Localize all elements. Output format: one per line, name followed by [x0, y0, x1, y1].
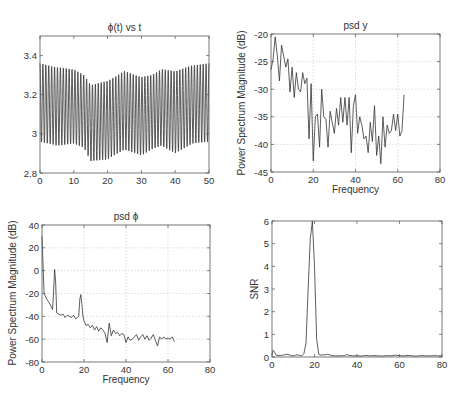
x-axis-label: Frequency [102, 374, 149, 385]
data-series-line [40, 63, 209, 161]
y-tick-label: -20 [25, 288, 39, 299]
y-tick-label: -40 [25, 311, 39, 322]
plot-title: psd y [344, 20, 368, 31]
y-tick-label: -35 [254, 111, 268, 122]
x-tick-label: 20 [102, 175, 113, 186]
y-tick-label: -45 [254, 167, 268, 178]
y-tick-label: -30 [254, 84, 268, 95]
x-tick-label: 0 [269, 359, 274, 370]
subplot-phi-vs-t: ϕ(t) vs t 010203040502.833.23.4 [24, 22, 215, 186]
subplot-snr: SNR 0204060800123456 [249, 216, 447, 371]
x-axis-label: Frequency [332, 184, 379, 195]
y-tick-label: 6 [264, 216, 269, 227]
y-tick-label: -25 [254, 56, 268, 67]
axes-frame [272, 221, 442, 357]
y-tick-label: 3.4 [24, 50, 37, 61]
subplot-psd-y: psd y Frequency Power Spectrum Magnitude… [236, 20, 445, 195]
y-tick-label: -20 [254, 29, 268, 40]
y-tick-label: 3.2 [24, 89, 37, 100]
x-tick-label: 80 [435, 174, 446, 185]
x-tick-label: 0 [268, 174, 273, 185]
x-tick-label: 80 [205, 364, 216, 375]
plot-title: psd ϕ [114, 211, 139, 222]
axes-frame [271, 34, 440, 172]
x-tick-label: 20 [309, 359, 320, 370]
x-tick-label: 40 [170, 175, 181, 186]
data-series-line [42, 236, 174, 346]
y-tick-label: -60 [25, 334, 39, 345]
y-axis-label: Power Spectrum Magnitude (dB) [236, 30, 247, 175]
x-tick-label: 0 [39, 364, 44, 375]
x-tick-label: 50 [204, 175, 215, 186]
x-tick-label: 60 [163, 364, 174, 375]
y-axis-label: Power Spectrum Magnitude (dB) [7, 220, 18, 365]
y-tick-label: 3 [32, 128, 37, 139]
x-tick-label: 20 [308, 174, 319, 185]
x-tick-label: 60 [394, 359, 405, 370]
x-tick-label: 30 [136, 175, 147, 186]
x-tick-label: 40 [121, 364, 132, 375]
x-tick-label: 80 [437, 359, 448, 370]
y-tick-label: 40 [28, 220, 39, 231]
x-tick-label: 10 [69, 175, 80, 186]
y-tick-label: 2 [264, 306, 269, 317]
y-tick-label: 0 [264, 352, 269, 363]
y-tick-label: 1 [264, 329, 269, 340]
y-tick-label: 5 [264, 238, 269, 249]
figure: ϕ(t) vs t 010203040502.833.23.4 psd y Fr… [0, 0, 456, 395]
data-series-line [272, 221, 442, 356]
y-tick-label: -40 [254, 139, 268, 150]
x-tick-label: 40 [350, 174, 361, 185]
x-tick-label: 40 [352, 359, 363, 370]
y-tick-label: -80 [25, 357, 39, 368]
y-axis-label: SNR [249, 278, 260, 299]
y-tick-label: 2.8 [24, 168, 37, 179]
plot-title: ϕ(t) vs t [108, 22, 142, 33]
y-tick-label: 20 [28, 242, 39, 253]
x-tick-label: 60 [392, 174, 403, 185]
y-tick-label: 3 [264, 284, 269, 295]
subplot-psd-phi: psd ϕ Frequency Power Spectrum Magnitude… [7, 211, 215, 385]
y-tick-label: 0 [34, 265, 39, 276]
y-tick-label: 4 [264, 261, 269, 272]
x-tick-label: 0 [37, 175, 42, 186]
x-tick-label: 20 [79, 364, 90, 375]
